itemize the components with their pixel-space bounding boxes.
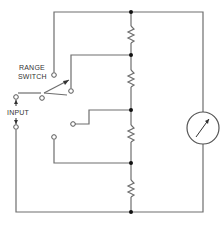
- label-switch: SWITCH: [18, 73, 47, 80]
- switch-contact-3: [71, 122, 76, 127]
- switch-contact-1: [52, 73, 57, 78]
- junction-dot: [129, 10, 133, 14]
- arrow-up-icon: [14, 100, 18, 104]
- junction-dot: [129, 161, 133, 165]
- resistor-r3: [128, 125, 134, 142]
- junction-dot: [129, 210, 133, 214]
- junction-dot: [129, 53, 133, 57]
- resistor-r2: [128, 70, 134, 87]
- wire-top: [54, 12, 203, 112]
- switch-contact-4: [52, 135, 57, 140]
- arrow-down-icon: [14, 120, 18, 124]
- wire-bottom: [16, 130, 203, 212]
- switch-arrow-icon: [63, 80, 69, 85]
- wire-tap-2: [71, 55, 131, 88]
- switch-pivot: [40, 96, 45, 101]
- switch-wire: [44, 93, 67, 95]
- resistor-r1: [128, 26, 134, 43]
- input-terminal-bottom: [14, 125, 19, 130]
- switch-contact-2: [69, 89, 74, 94]
- wire-tap-4: [54, 140, 131, 163]
- junction-dot: [129, 108, 133, 112]
- label-input: INPUT: [7, 109, 30, 116]
- wire-tap-3: [75, 110, 131, 124]
- label-range: RANGE: [19, 64, 45, 71]
- input-terminal-top: [14, 95, 19, 100]
- resistor-r4: [128, 180, 134, 197]
- circuit-diagram: RANGE SWITCH INPUT: [0, 0, 224, 225]
